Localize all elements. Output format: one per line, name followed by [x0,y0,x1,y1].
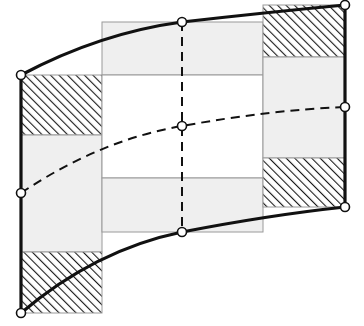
node-mid-right [341,103,350,112]
gray-band [21,135,102,252]
mesh-element-diagram [0,0,364,326]
node-top-mid [178,18,187,27]
gray-band [263,57,345,158]
node-center [178,122,187,131]
diagram-canvas [0,0,364,326]
node-bottom-left [17,309,26,318]
hatched-band [21,75,102,135]
node-bottom-right [341,203,350,212]
column-left [21,75,102,313]
node-bottom-mid [178,228,187,237]
column-right [263,5,345,207]
node-mid-left [17,189,26,198]
hatched-band [263,158,345,207]
node-top-left [17,71,26,80]
node-top-right [341,1,350,10]
